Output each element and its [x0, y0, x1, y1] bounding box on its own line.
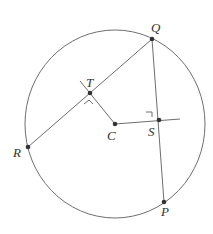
right-angle-mark-T	[84, 100, 93, 104]
label-R: R	[12, 145, 21, 160]
circle-diagram: Q T C S R P	[0, 0, 213, 234]
label-Q: Q	[151, 20, 161, 35]
point-T	[88, 91, 93, 96]
point-C	[113, 122, 118, 127]
label-S: S	[148, 124, 155, 139]
point-R	[26, 145, 31, 150]
point-Q	[150, 37, 155, 42]
right-angle-mark-S	[146, 112, 152, 117]
point-S	[157, 118, 162, 123]
label-P: P	[160, 204, 169, 219]
label-T: T	[86, 75, 94, 90]
label-C: C	[107, 128, 116, 143]
